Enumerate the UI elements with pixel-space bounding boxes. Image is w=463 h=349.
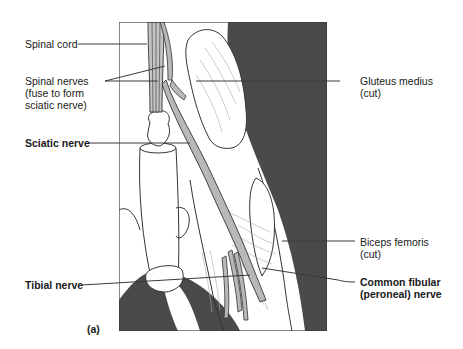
label-common-fibular-nerve: Common fibular (peroneal) nerve bbox=[360, 276, 442, 300]
label-biceps-femoris: Biceps femoris (cut) bbox=[360, 236, 429, 260]
label-tibial-nerve: Tibial nerve bbox=[25, 279, 83, 291]
panel-label: (a) bbox=[87, 323, 100, 335]
label-spinal-cord: Spinal cord bbox=[25, 38, 78, 50]
sacrum-bone bbox=[148, 111, 170, 146]
label-gluteus-medius: Gluteus medius (cut) bbox=[360, 75, 433, 99]
label-spinal-nerves: Spinal nerves (fuse to form sciatic nerv… bbox=[25, 75, 89, 111]
label-sciatic-nerve: Sciatic nerve bbox=[25, 137, 90, 149]
